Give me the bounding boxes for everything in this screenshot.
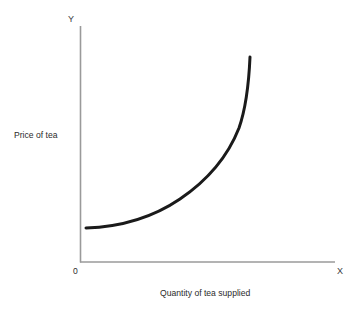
y-axis-title: Price of tea bbox=[14, 130, 57, 141]
plot-area bbox=[0, 0, 357, 311]
supply-curve-line bbox=[86, 57, 250, 228]
supply-curve-figure: Y X 0 Price of tea Quantity of tea suppl… bbox=[0, 0, 357, 311]
x-axis-letter: X bbox=[337, 266, 343, 277]
y-axis-letter: Y bbox=[68, 14, 74, 25]
x-axis-title: Quantity of tea supplied bbox=[160, 288, 250, 299]
origin-label: 0 bbox=[73, 266, 78, 277]
